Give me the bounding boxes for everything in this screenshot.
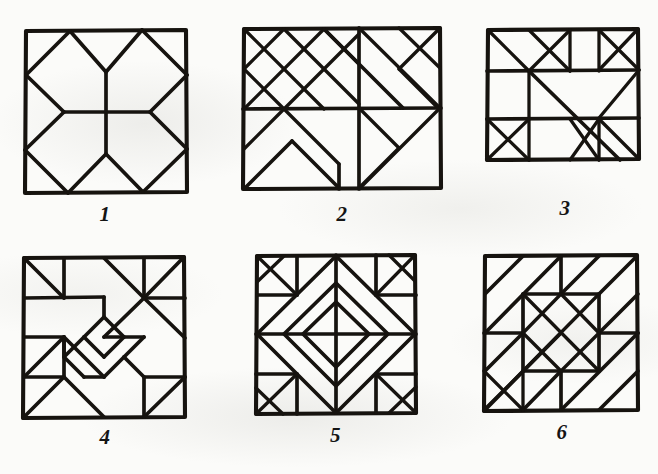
- figure-2-label: 2: [232, 202, 452, 227]
- lower-right-diagonal: [144, 377, 185, 417]
- chevron-left-arm: [244, 141, 292, 189]
- knot-edge-5: [124, 337, 144, 357]
- right-upper-wedge: [150, 75, 187, 112]
- chamfer-top-left: [26, 31, 70, 75]
- left-lower-wedge: [25, 112, 64, 150]
- figure-5: 5: [243, 243, 428, 458]
- hub2-diagonal-to-base: [64, 377, 104, 417]
- knot-hub-link: [104, 298, 144, 337]
- figure-3: 3: [475, 18, 655, 233]
- lattice-se-3: [284, 34, 359, 109]
- band-ne-8: [561, 256, 599, 294]
- band-ne-7: [599, 371, 638, 410]
- mid-horizontal: [243, 108, 441, 109]
- figure-5-label: 5: [243, 423, 428, 448]
- knot-to-corner-link: [124, 357, 144, 377]
- left-upper-wedge: [26, 75, 64, 112]
- figure-4-label: 4: [10, 425, 200, 450]
- hub2-diagonal-up-left: [24, 337, 64, 377]
- knot-edge-2: [84, 337, 104, 357]
- middle-diagonal-right: [599, 70, 639, 118]
- pattern-sheet: 1: [0, 0, 658, 474]
- upper-right-diagonal: [106, 30, 142, 72]
- lower-left-diagonal: [244, 109, 284, 149]
- figure-1: 1: [10, 16, 200, 231]
- lower-left-diagonal: [68, 154, 106, 193]
- band-line-upper: [487, 70, 639, 71]
- chamfer-bottom-right: [143, 149, 187, 192]
- figure-5-drawing: [243, 243, 428, 423]
- hub-top-diagonal-in: [104, 258, 144, 298]
- long-diagonal-upper: [324, 29, 403, 108]
- band-line-lower: [487, 118, 639, 119]
- hub2-diagonal-to-corner: [23, 377, 64, 418]
- lower-right-triangle-1: [359, 108, 399, 148]
- figure-3-label: 3: [475, 196, 655, 221]
- figure-2-drawing: [232, 16, 452, 206]
- figure-1-drawing: [10, 16, 200, 206]
- band-ne-9: [599, 256, 637, 294]
- hub-top-right-diagonal: [144, 257, 184, 298]
- right-lower-wedge: [150, 112, 187, 149]
- figure-1-label: 1: [10, 202, 200, 227]
- chamfer-bottom-left: [25, 150, 68, 193]
- figure-6: 6: [472, 243, 652, 458]
- knot-edge-8: [64, 357, 84, 377]
- knot-edge-1: [84, 317, 104, 337]
- upper-left-diagonal: [70, 31, 106, 72]
- band-ne-1: [485, 256, 523, 294]
- long-diagonal: [529, 71, 620, 160]
- figure-2: 2: [232, 16, 452, 231]
- figure-4: 4: [10, 245, 200, 460]
- figure-4-drawing: [10, 245, 200, 425]
- band-ne-3: [485, 333, 523, 371]
- lower-right-diagonal: [106, 154, 143, 192]
- lower-diagonal-5: [599, 119, 639, 159]
- figure-6-drawing: [472, 243, 652, 423]
- chamfer-top-right: [142, 30, 187, 75]
- knot-edge-3: [104, 337, 124, 357]
- lower-hub-diagonal: [284, 109, 339, 164]
- figure-3-drawing: [475, 18, 655, 198]
- band-ne-10: [599, 294, 638, 333]
- hub-lower-right-diagonal: [144, 298, 185, 338]
- upper-right-diagonal-4: [399, 69, 438, 108]
- lattice-ne-3: [284, 29, 359, 104]
- hub2-diagonal-down-right: [64, 337, 104, 377]
- upper-diagonal-1: [488, 30, 529, 71]
- band-ne-5: [523, 371, 561, 410]
- chevron-right-arm: [292, 141, 339, 188]
- knot-edge-6: [104, 357, 124, 377]
- figure-6-label: 6: [472, 420, 652, 445]
- corner-triangle-tl: [24, 258, 64, 298]
